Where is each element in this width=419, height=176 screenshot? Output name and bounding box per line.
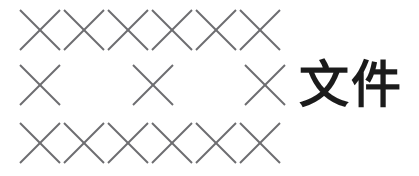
x-mark-row-1 <box>0 8 300 56</box>
x-mark <box>243 63 287 107</box>
x-mark <box>18 8 62 52</box>
x-mark <box>62 8 106 52</box>
x-mark <box>18 63 62 107</box>
x-mark-row-3 <box>0 121 300 169</box>
x-mark <box>194 121 238 165</box>
x-mark <box>106 8 150 52</box>
x-mark-row-2 <box>0 63 300 111</box>
x-mark <box>18 121 62 165</box>
x-mark <box>131 63 175 107</box>
x-mark <box>238 8 282 52</box>
x-mark <box>238 121 282 165</box>
x-mark <box>150 121 194 165</box>
x-mark <box>106 121 150 165</box>
cjk-text-label: 文件 <box>299 56 415 114</box>
image-canvas: 文件 <box>0 0 419 176</box>
x-mark <box>150 8 194 52</box>
x-mark <box>194 8 238 52</box>
x-mark <box>62 121 106 165</box>
